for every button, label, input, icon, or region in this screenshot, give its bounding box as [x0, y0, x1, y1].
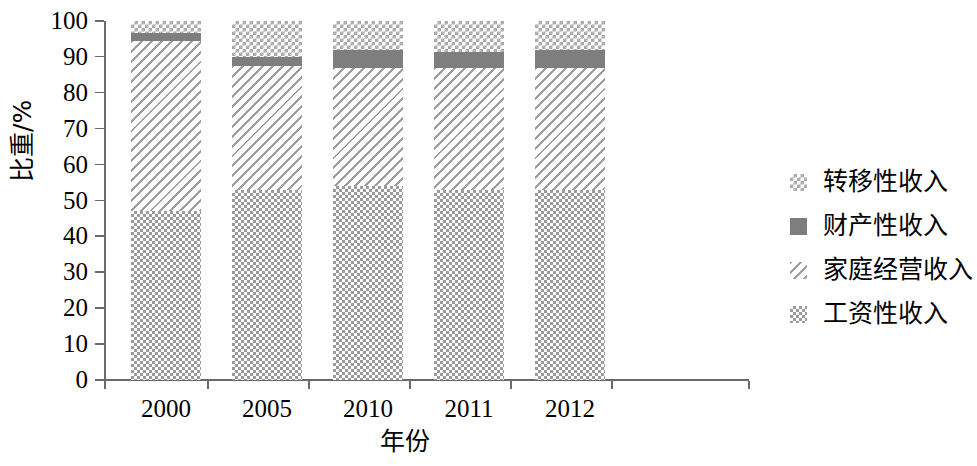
stacked-bar-chart: 比重/% 0102030405060708090100 200020052010… — [0, 0, 977, 466]
y-tick-mark — [95, 164, 104, 166]
bar-segment-财产性收入 — [333, 50, 403, 68]
x-axis-title: 年份 — [325, 428, 485, 456]
bar-segment-家庭经营收入 — [232, 66, 302, 190]
legend-label: 转移性收入 — [823, 169, 948, 195]
y-tick-mark — [95, 20, 104, 22]
legend-item-工资性收入[interactable]: 工资性收入 — [790, 292, 975, 336]
x-tick-mark — [104, 381, 106, 389]
bar-2012 — [535, 21, 605, 380]
bar-segment-转移性收入 — [535, 21, 605, 50]
bar-segment-财产性收入 — [434, 52, 504, 68]
y-tick-label-text: 50 — [63, 188, 88, 213]
legend-item-转移性收入[interactable]: 转移性收入 — [790, 160, 975, 204]
bar-2011 — [434, 21, 504, 380]
y-tick-mark — [95, 56, 104, 58]
y-tick-label-text: 0 — [76, 367, 89, 392]
bar-segment-家庭经营收入 — [535, 68, 605, 190]
bar-segment-财产性收入 — [131, 33, 201, 41]
legend-label: 财产性收入 — [823, 213, 948, 239]
y-tick-mark — [95, 379, 104, 381]
bar-segment-工资性收入 — [232, 190, 302, 380]
legend-swatch-icon — [790, 306, 807, 323]
legend-label: 家庭经营收入 — [823, 257, 973, 283]
bar-segment-家庭经营收入 — [333, 68, 403, 186]
y-tick-mark — [95, 92, 104, 94]
bar-segment-工资性收入 — [333, 186, 403, 380]
legend-item-财产性收入[interactable]: 财产性收入 — [790, 204, 975, 248]
y-tick-label-text: 80 — [63, 80, 88, 105]
x-tick-mark — [748, 381, 750, 389]
bar-segment-转移性收入 — [434, 21, 504, 52]
y-tick-mark — [95, 235, 104, 237]
y-tick-label-text: 30 — [63, 259, 88, 284]
y-tick-label-text: 100 — [51, 8, 89, 33]
y-tick-label-text: 20 — [63, 295, 88, 320]
bar-segment-财产性收入 — [535, 50, 605, 68]
bar-segment-工资性收入 — [434, 190, 504, 380]
bar-segment-财产性收入 — [232, 57, 302, 66]
y-axis-line — [104, 21, 106, 381]
y-tick-label-text: 70 — [63, 116, 88, 141]
y-tick-label-text: 90 — [63, 44, 88, 69]
y-axis-title-text: 比重/% — [8, 148, 38, 182]
bar-segment-转移性收入 — [232, 21, 302, 57]
y-tick-mark — [95, 343, 104, 345]
y-tick-label-text: 10 — [63, 331, 88, 356]
x-tick-mark — [611, 381, 613, 389]
bar-segment-转移性收入 — [131, 21, 201, 33]
y-tick-label-text: 40 — [63, 223, 88, 248]
bar-segment-工资性收入 — [535, 190, 605, 380]
legend-item-家庭经营收入[interactable]: 家庭经营收入 — [790, 248, 975, 292]
bar-segment-转移性收入 — [333, 21, 403, 50]
y-tick-mark — [95, 200, 104, 202]
bar-segment-工资性收入 — [131, 211, 201, 380]
y-tick-mark — [95, 128, 104, 130]
y-tick-mark — [95, 271, 104, 273]
x-tick-mark — [308, 381, 310, 389]
x-tick-mark — [510, 381, 512, 389]
bar-2000 — [131, 21, 201, 380]
chart-legend: 转移性收入财产性收入家庭经营收入工资性收入 — [790, 160, 975, 336]
x-tick-mark — [207, 381, 209, 389]
y-tick-label-text: 60 — [63, 152, 88, 177]
x-tick-label-2012: 2012 — [510, 395, 630, 423]
bar-2010 — [333, 21, 403, 380]
bar-segment-家庭经营收入 — [434, 68, 504, 190]
bar-2005 — [232, 21, 302, 380]
legend-swatch-icon — [790, 174, 807, 191]
bar-segment-家庭经营收入 — [131, 41, 201, 212]
legend-swatch-icon — [790, 218, 807, 235]
y-axis-title: 比重/% — [6, 150, 40, 180]
y-tick-mark — [95, 307, 104, 309]
legend-label: 工资性收入 — [823, 301, 948, 327]
legend-swatch-icon — [790, 262, 807, 279]
x-tick-mark — [409, 381, 411, 389]
